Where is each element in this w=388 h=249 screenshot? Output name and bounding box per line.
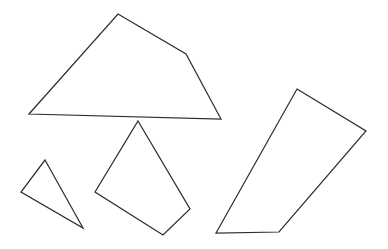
polygon-figure xyxy=(0,0,388,249)
middle-quadrilateral-shape xyxy=(95,121,190,235)
large-quadrilateral-shape xyxy=(29,14,221,119)
figure-canvas xyxy=(0,0,388,249)
small-triangle-shape xyxy=(21,160,83,228)
right-quadrilateral-shape xyxy=(216,89,366,233)
